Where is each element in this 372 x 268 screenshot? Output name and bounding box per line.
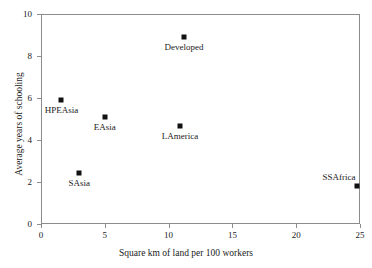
x-tick-label: 10 (164, 230, 173, 240)
data-point-label: EAsia (94, 122, 116, 132)
data-point-label: SSAfrica (322, 172, 355, 182)
y-tick-label: 4 (28, 135, 33, 145)
y-tick-mark (37, 98, 41, 99)
y-tick-mark (37, 224, 41, 225)
x-axis-title: Square km of land per 100 workers (0, 248, 372, 258)
data-point-marker (102, 114, 107, 119)
x-tick-label: 5 (103, 230, 108, 240)
data-point-marker (178, 124, 183, 129)
x-tick-mark (41, 224, 42, 228)
x-tick-label: 20 (292, 230, 301, 240)
data-point-label: Developed (164, 42, 203, 52)
data-point-marker (59, 98, 64, 103)
y-tick-label: 6 (28, 93, 33, 103)
y-tick-label: 0 (28, 219, 33, 229)
y-axis-title: Average years of schooling (14, 64, 24, 184)
data-point-label: HPEAsia (45, 105, 79, 115)
x-tick-label: 25 (356, 230, 365, 240)
data-point-label: LAmerica (162, 131, 198, 141)
y-tick-label: 2 (28, 177, 33, 187)
x-tick-mark (296, 224, 297, 228)
data-point-marker (355, 184, 360, 189)
data-point-marker (181, 35, 186, 40)
x-tick-mark (169, 224, 170, 228)
scatter-chart-figure: 0510152025 0246810 HPEAsiaEAsiaSAsiaDeve… (0, 0, 372, 268)
x-tick-label: 0 (39, 230, 44, 240)
x-tick-mark (360, 224, 361, 228)
y-tick-mark (37, 14, 41, 15)
x-tick-label: 15 (228, 230, 237, 240)
data-point-label: SAsia (69, 178, 91, 188)
y-tick-mark (37, 182, 41, 183)
x-tick-mark (105, 224, 106, 228)
data-point-marker (77, 170, 82, 175)
y-tick-label: 10 (23, 9, 32, 19)
x-tick-mark (232, 224, 233, 228)
y-tick-mark (37, 140, 41, 141)
y-tick-label: 8 (28, 51, 33, 61)
y-tick-mark (37, 56, 41, 57)
